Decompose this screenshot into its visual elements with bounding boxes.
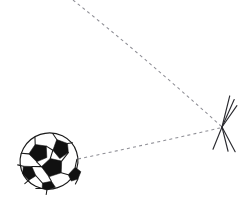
trajectory-diagram: Soccer ball trajectory and impact diagra… (0, 0, 245, 206)
diagram-canvas: Soccer ball trajectory and impact diagra… (0, 0, 245, 206)
